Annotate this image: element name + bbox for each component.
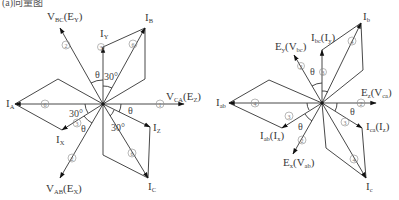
ia-label: IA: [6, 97, 15, 110]
circle-number: 2: [301, 138, 304, 144]
ex-vab-label: Ex(Vab): [283, 156, 315, 169]
circle-number: 2: [71, 156, 74, 162]
ica-iz-label: Ica(Iz): [366, 120, 390, 133]
ic-label: Ic: [366, 180, 373, 193]
theta-label: θ: [81, 123, 86, 134]
angle-arc: [85, 104, 88, 113]
vbc-ey-label: VBC(EY): [47, 10, 83, 23]
phasor-diagrams: 2 3 6 1 6 3 2 6 θ 30° 30° θ θ 30° VBC(EY…: [0, 0, 399, 200]
angle-arc: [84, 116, 92, 123]
angle-30-label: 30°: [69, 108, 83, 119]
vab-ex-label: VAB(EX): [46, 182, 82, 195]
ey-vector: [294, 55, 322, 103]
angle-arc: [119, 104, 121, 112]
circle-number: 2: [360, 101, 363, 107]
circle-number: 3: [344, 120, 347, 126]
origin-point: [102, 103, 105, 106]
theta-label: θ: [310, 66, 315, 77]
ia-parallelogram: [15, 79, 103, 104]
circle-number: 6: [132, 42, 135, 48]
ib-label: IB: [145, 11, 154, 24]
angle-arc: [91, 80, 103, 83]
angle-arc: [335, 103, 337, 111]
circle-number: 1: [159, 102, 162, 108]
circle-number: 2: [300, 64, 303, 70]
ic-label: IC: [148, 180, 156, 193]
vca-ez-label: VCA(EZ): [166, 90, 201, 103]
angle-arc: [322, 91, 328, 92]
circle-number: 3: [322, 70, 325, 76]
circle-number: 2: [65, 43, 68, 49]
angle-arc: [110, 110, 114, 116]
theta-label: θ: [350, 106, 355, 117]
origin-point: [321, 102, 324, 105]
iab-parallelogram: [229, 80, 322, 103]
angle-arc: [305, 114, 312, 121]
theta-label: θ: [128, 105, 133, 116]
circle-number: 4: [254, 101, 257, 107]
ia-lower-parallelogram: [15, 104, 62, 130]
circle-number: 3: [100, 45, 103, 51]
ib-label: Ib: [363, 10, 370, 23]
circle-number: 4: [351, 39, 354, 45]
iab-label: Iab: [216, 96, 226, 109]
angle-arc: [103, 86, 112, 88]
circle-number: 4: [353, 157, 356, 163]
ey-vbc-label: Ey(Vbc): [275, 40, 307, 53]
circle-number: 3: [76, 121, 79, 127]
circle-number: 6: [44, 102, 47, 108]
circle-number: 6: [131, 151, 134, 157]
iz-label: IZ: [153, 121, 161, 134]
iy-label: IY: [100, 27, 109, 40]
angle-30-label: 30°: [104, 71, 118, 82]
ibc-iy-label: Ibc(Iy): [311, 31, 335, 44]
angle-arc: [312, 83, 322, 86]
circle-number: 3: [288, 114, 291, 120]
ix-label: IX: [56, 133, 65, 146]
iab-ix-label: Iab(Ix): [260, 129, 284, 142]
angle-arc: [307, 103, 309, 110]
ez-vca-label: Ez(Vca): [361, 86, 392, 99]
vbc-vector: [60, 28, 103, 104]
theta-label: θ: [298, 121, 303, 132]
ic-vector: [322, 103, 366, 178]
angle-30-label: 30°: [111, 122, 125, 133]
theta-label: θ: [95, 69, 100, 80]
ib-vector: [103, 28, 145, 104]
